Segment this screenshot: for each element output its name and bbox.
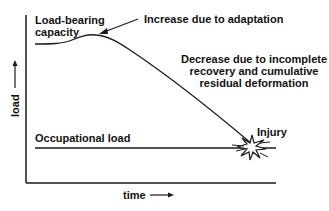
injury-label: Injury bbox=[257, 126, 287, 138]
decrease-label: Decrease due to incomplete recovery and … bbox=[180, 53, 328, 89]
capacity-label-line2: capacity bbox=[35, 26, 105, 38]
decrease-label-line3: residual deformation bbox=[180, 77, 328, 89]
y-axis-label: load bbox=[9, 94, 21, 117]
increase-label: Increase due to adaptation bbox=[144, 13, 283, 25]
decrease-label-line1: Decrease due to incomplete bbox=[180, 53, 328, 65]
capacity-label: Load-bearing capacity bbox=[35, 14, 105, 38]
capacity-curve bbox=[35, 35, 252, 144]
increase-arrow bbox=[104, 19, 138, 32]
occupational-load-label: Occupational load bbox=[35, 132, 130, 144]
capacity-label-line1: Load-bearing bbox=[35, 14, 105, 26]
x-arrowhead-icon bbox=[168, 193, 174, 198]
decrease-label-line2: recovery and cumulative bbox=[180, 65, 328, 77]
y-arrowhead-icon bbox=[13, 60, 18, 66]
x-axis-label: time bbox=[123, 189, 146, 201]
